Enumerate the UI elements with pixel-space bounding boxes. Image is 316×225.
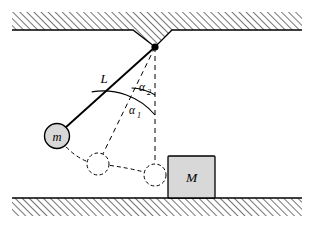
alpha2-label: α 2 bbox=[139, 81, 151, 97]
alpha1-label-subscript: 1 bbox=[137, 111, 141, 120]
floor-hatched-band bbox=[10, 196, 304, 218]
ceiling-hatched-band bbox=[10, 10, 304, 50]
dashed-radius-line bbox=[98, 47, 155, 164]
block-M-label: M bbox=[185, 170, 198, 185]
pendulum-bob-ghost-mid bbox=[87, 153, 109, 175]
alpha2-label-symbol: α bbox=[139, 81, 146, 93]
alpha1-label-symbol: α bbox=[129, 104, 136, 116]
pendulum-bob-ghost-contact bbox=[144, 164, 166, 186]
pendulum-bob-m-label: m bbox=[52, 130, 61, 144]
string-length-label: L bbox=[99, 71, 107, 86]
alpha1-label: α 1 bbox=[129, 104, 141, 120]
alpha2-label-subscript: 2 bbox=[147, 88, 151, 97]
pivot-point bbox=[151, 43, 158, 50]
pendulum-diagram-svg: M m L α 2 α 1 bbox=[0, 0, 316, 225]
diagram-canvas: M m L α 2 α 1 bbox=[0, 0, 316, 225]
